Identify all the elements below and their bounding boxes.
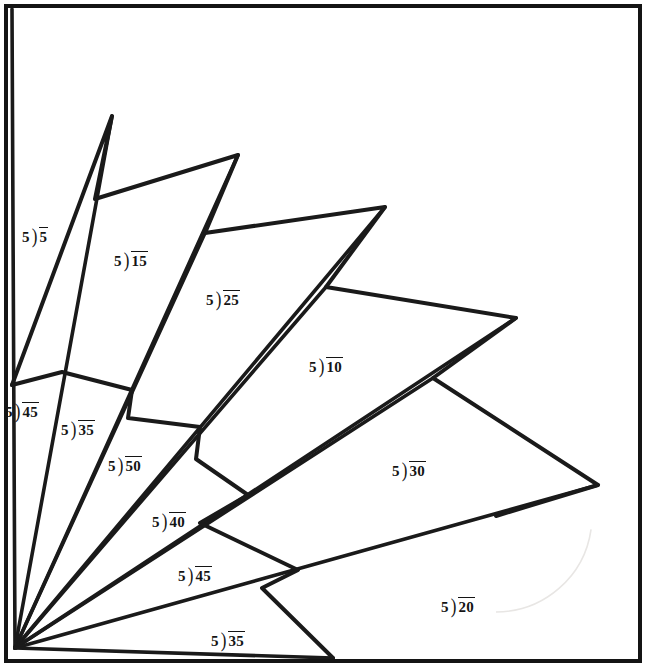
division-problem-p4: 5)10 [309, 357, 343, 377]
division-problem-p2: 5)15 [114, 251, 148, 271]
division-paren-icon: ) [221, 628, 227, 653]
division-paren-icon: ) [216, 287, 222, 312]
divisor: 5 [441, 599, 449, 615]
dividend: 50 [125, 456, 142, 475]
division-problem-p8: 5)40 [152, 512, 186, 532]
division-fan-figure [0, 0, 646, 667]
worksheet-page: 5)55)155)255)105)455)355)505)405)305)455… [0, 0, 646, 667]
ray-10 [15, 648, 333, 658]
long-division-bracket-icon: )45 [13, 402, 39, 422]
divisor: 5 [206, 292, 214, 308]
long-division-bracket-icon: )35 [219, 631, 245, 651]
division-paren-icon: ) [32, 224, 38, 249]
divisor: 5 [5, 404, 13, 420]
division-paren-icon: ) [15, 399, 21, 424]
long-division-bracket-icon: )30 [400, 461, 426, 481]
long-division-bracket-icon: )20 [449, 597, 475, 617]
divisor: 5 [152, 514, 160, 530]
dividend: 45 [22, 402, 39, 421]
divisor: 5 [309, 359, 317, 375]
division-problem-p1: 5)5 [22, 227, 48, 247]
divisor: 5 [61, 422, 69, 438]
division-paren-icon: ) [162, 509, 168, 534]
division-problem-p3: 5)25 [206, 290, 240, 310]
division-paren-icon: ) [124, 248, 130, 273]
dividend: 35 [78, 420, 95, 439]
dividend: 45 [195, 566, 212, 585]
long-division-bracket-icon: )10 [317, 357, 343, 377]
division-problem-p12: 5)35 [211, 631, 245, 651]
dividend: 35 [228, 631, 245, 650]
dividend: 40 [169, 512, 186, 531]
division-problem-p5: 5)45 [5, 402, 39, 422]
divisor: 5 [22, 229, 30, 245]
dividend: 25 [223, 290, 240, 309]
dividend: 10 [326, 357, 343, 376]
dividend: 20 [458, 597, 475, 616]
division-problem-p10: 5)45 [178, 566, 212, 586]
divisor: 5 [114, 253, 122, 269]
long-division-bracket-icon: )35 [69, 420, 95, 440]
divisor: 5 [178, 568, 186, 584]
dividend: 30 [409, 461, 426, 480]
division-problem-p11: 5)20 [441, 597, 475, 617]
ray-9 [15, 485, 598, 648]
long-division-bracket-icon: )45 [186, 566, 212, 586]
divisor: 5 [392, 463, 400, 479]
division-paren-icon: ) [451, 594, 457, 619]
dividend: 5 [39, 227, 49, 246]
divisor: 5 [211, 633, 219, 649]
dividend: 15 [131, 251, 148, 270]
ray-group [12, 9, 598, 658]
faint-arc [496, 529, 591, 612]
faint-arc-group [496, 529, 591, 612]
division-paren-icon: ) [118, 453, 124, 478]
divisor: 5 [108, 458, 116, 474]
division-problem-p6: 5)35 [61, 420, 95, 440]
division-problem-p7: 5)50 [108, 456, 142, 476]
division-paren-icon: ) [402, 458, 408, 483]
long-division-bracket-icon: )40 [160, 512, 186, 532]
division-paren-icon: ) [71, 417, 77, 442]
long-division-bracket-icon: )25 [214, 290, 240, 310]
division-problem-p9: 5)30 [392, 461, 426, 481]
long-division-bracket-icon: )5 [30, 227, 49, 247]
division-paren-icon: ) [319, 354, 325, 379]
division-paren-icon: ) [188, 563, 194, 588]
long-division-bracket-icon: )15 [122, 251, 148, 271]
ray-1 [12, 9, 15, 648]
long-division-bracket-icon: )50 [116, 456, 142, 476]
